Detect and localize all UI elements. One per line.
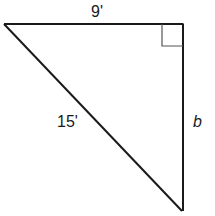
hypotenuse-label: 15' (57, 114, 78, 130)
right-side-label: b (193, 114, 202, 130)
triangle-figure (0, 0, 215, 216)
right-triangle-diagram: 9' 15' b (0, 0, 215, 216)
hypotenuse-line (4, 24, 182, 211)
right-angle-marker (162, 24, 183, 46)
top-side-label: 9' (91, 4, 103, 20)
